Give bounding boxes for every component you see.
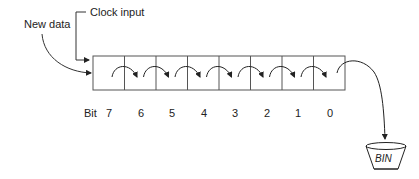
bit-index-4: 4 <box>201 107 207 119</box>
clock-input-arrow <box>76 12 89 60</box>
clock-input-label: Clock input <box>90 6 144 18</box>
bit-label: Bit <box>84 107 97 119</box>
shift-register-diagram: New data Clock input Bit 7 6 5 4 3 2 1 0 <box>0 0 419 179</box>
new-data-label: New data <box>24 18 71 30</box>
bin-icon: BIN <box>366 143 406 170</box>
bit-index-6: 6 <box>138 107 144 119</box>
bin-label: BIN <box>375 153 392 164</box>
new-data-arrow <box>42 34 91 73</box>
overflow-arrow <box>337 61 385 139</box>
bit-index-5: 5 <box>169 107 175 119</box>
bit-index-2: 2 <box>264 107 270 119</box>
bit-index-0: 0 <box>327 107 333 119</box>
bit-index-3: 3 <box>232 107 238 119</box>
register-box <box>93 56 345 90</box>
bit-index-7: 7 <box>106 107 112 119</box>
bit-index-1: 1 <box>295 107 301 119</box>
